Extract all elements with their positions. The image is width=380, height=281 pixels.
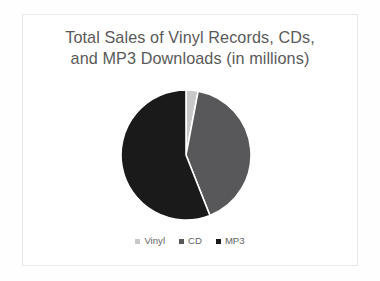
legend-label-mp3: MP3 — [225, 236, 245, 246]
legend-swatch-icon — [216, 239, 221, 244]
legend-item-vinyl[interactable]: Vinyl — [135, 236, 165, 246]
pie-svg — [119, 88, 253, 222]
chart-legend: Vinyl CD MP3 — [22, 236, 358, 246]
legend-item-mp3[interactable]: MP3 — [216, 236, 245, 246]
legend-label-vinyl: Vinyl — [144, 236, 165, 246]
legend-label-cd: CD — [188, 236, 202, 246]
legend-swatch-icon — [179, 239, 184, 244]
legend-swatch-icon — [135, 239, 140, 244]
slide-canvas: Total Sales of Vinyl Records, CDs, and M… — [0, 0, 380, 281]
pie-slices — [121, 90, 251, 220]
legend-item-cd[interactable]: CD — [179, 236, 202, 246]
pie-plot-area — [22, 14, 358, 266]
pie-chart: Total Sales of Vinyl Records, CDs, and M… — [22, 14, 358, 266]
